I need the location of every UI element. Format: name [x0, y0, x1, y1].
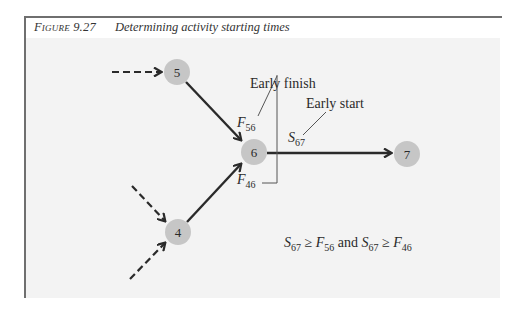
edge-4-to-6	[187, 164, 241, 222]
early-start-label: Early start	[306, 96, 364, 111]
node-7-label: 7	[404, 147, 411, 162]
f56-label: F56	[236, 115, 256, 133]
node-4-label: 4	[175, 225, 182, 240]
network-diagram: 5 6 4 7 Early finish Early start F56 F46…	[0, 0, 525, 312]
node-5: 5	[164, 59, 190, 85]
early-finish-bracket	[258, 75, 277, 183]
s67-label: S67	[288, 130, 305, 148]
node-5-label: 5	[174, 65, 181, 80]
node-6: 6	[241, 139, 267, 165]
edge-5-to-6	[186, 82, 241, 140]
node-4: 4	[165, 219, 191, 245]
dashed-arrow-into-4-upper	[132, 186, 165, 221]
dashed-arrow-into-4-lower	[130, 243, 165, 279]
node-7: 7	[394, 141, 420, 167]
early-start-leader	[303, 112, 326, 135]
f46-label: F46	[236, 172, 256, 190]
node-6-label: 6	[251, 145, 258, 160]
early-finish-label: Early finish	[250, 76, 316, 91]
constraint-formula: S67 ≥ F56 and S67 ≥ F46	[284, 235, 412, 253]
